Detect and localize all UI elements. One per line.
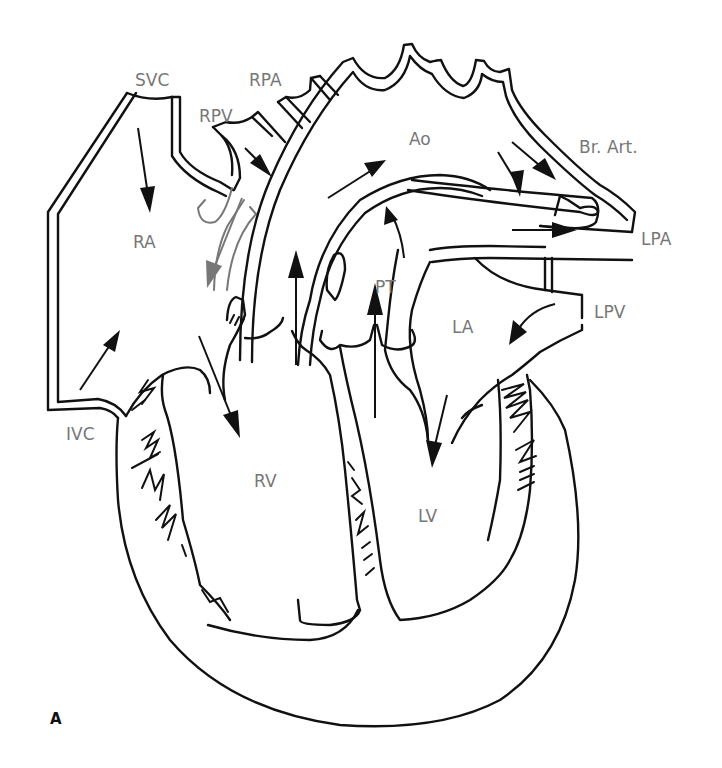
label-lpa: LPA bbox=[641, 229, 672, 249]
aortic-arch bbox=[240, 44, 635, 362]
label-ivc: IVC bbox=[66, 424, 95, 444]
arrow-icon bbox=[138, 128, 155, 213]
arrow-icon bbox=[199, 336, 240, 438]
arrow-icon bbox=[509, 304, 555, 345]
arrow-icon bbox=[367, 283, 383, 418]
label-pt: PT bbox=[375, 277, 396, 297]
arrow-icon bbox=[80, 330, 120, 390]
label-la: LA bbox=[452, 317, 474, 337]
label-rpa: RPA bbox=[249, 70, 282, 90]
heart-diagram: SVC RPA RPV Ao Br. Art. LPA RA PT LPV LA… bbox=[0, 0, 722, 768]
label-lv: LV bbox=[418, 506, 438, 526]
label-ao: Ao bbox=[409, 129, 431, 149]
panel-label: A bbox=[50, 710, 62, 728]
arrow-icon bbox=[426, 395, 447, 468]
trabeculae bbox=[132, 315, 536, 612]
label-rv: RV bbox=[254, 471, 277, 491]
label-ra: RA bbox=[133, 232, 156, 252]
label-svc: SVC bbox=[135, 70, 169, 90]
outer-heart-wall bbox=[117, 297, 579, 726]
left-atrium-wall bbox=[385, 250, 582, 443]
arrow-icon bbox=[512, 222, 577, 238]
arrow-icon bbox=[384, 206, 404, 258]
flow-arrows bbox=[80, 128, 577, 468]
arrow-icon bbox=[328, 160, 386, 198]
label-lpv: LPV bbox=[594, 302, 626, 322]
arrow-icon bbox=[245, 148, 272, 177]
label-br-art: Br. Art. bbox=[579, 137, 638, 157]
label-rpv: RPV bbox=[199, 106, 233, 126]
